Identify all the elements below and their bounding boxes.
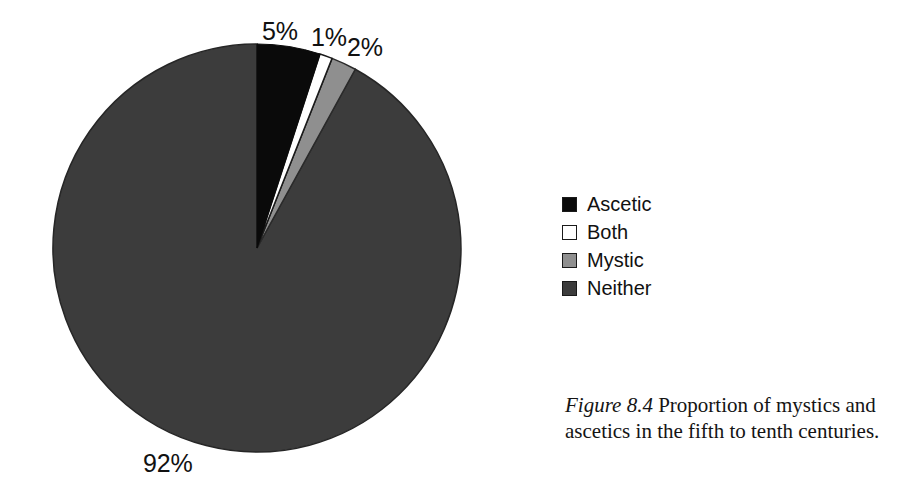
pie-label-neither-percent: 92% [143,449,192,478]
legend-item-mystic[interactable]: Mystic [562,246,782,274]
legend-label-mystic: Mystic [587,250,644,270]
pie-chart [0,0,520,504]
legend: Ascetic Both Mystic Neither [562,190,782,302]
legend-swatch-mystic-icon [562,253,577,268]
legend-swatch-ascetic-icon [562,197,577,212]
figure-caption-number: Figure 8.4 [565,393,653,417]
legend-label-neither: Neither [587,278,651,298]
pie-chart-svg [0,0,520,504]
pie-label-mystic-percent: 2% [347,33,383,62]
legend-item-neither[interactable]: Neither [562,274,782,302]
legend-swatch-neither-icon [562,281,577,296]
pie-label-ascetic-percent: 5% [262,17,298,46]
legend-item-both[interactable]: Both [562,218,782,246]
legend-label-ascetic: Ascetic [587,194,651,214]
legend-item-ascetic[interactable]: Ascetic [562,190,782,218]
pie-label-both-percent: 1% [311,23,347,52]
legend-label-both: Both [587,222,628,242]
figure-caption: Figure 8.4 Proportion of mystics and asc… [565,392,895,444]
legend-swatch-both-icon [562,225,577,240]
figure-page: 5% 1% 2% 92% Ascetic Both Mystic Neither… [0,0,924,504]
